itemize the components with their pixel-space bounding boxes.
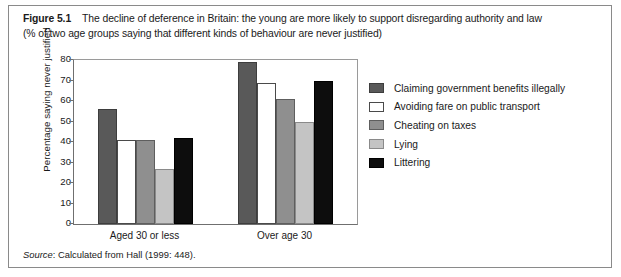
legend-swatch-icon [369, 83, 384, 93]
bar[interactable] [257, 83, 276, 224]
source-text: : Calculated from Hall (1999: 448). [53, 249, 196, 260]
figure-caption-line1: The decline of deference in Britain: the… [82, 13, 542, 24]
x-axis-tick-label: Over age 30 [225, 230, 345, 241]
bar-group [238, 60, 333, 224]
legend-item[interactable]: Claiming government benefits illegally [369, 79, 604, 98]
bar[interactable] [117, 140, 136, 224]
bar[interactable] [155, 169, 174, 224]
bar[interactable] [238, 62, 257, 224]
legend-item[interactable]: Cheating on taxes [369, 116, 604, 135]
legend-label: Littering [394, 157, 430, 168]
legend-label: Cheating on taxes [394, 120, 476, 131]
source-label: Source [23, 249, 53, 260]
chart-legend: Claiming government benefits illegallyAv… [369, 79, 604, 172]
legend-label: Claiming government benefits illegally [394, 83, 565, 94]
bar[interactable] [98, 109, 117, 224]
legend-label: Avoiding fare on public transport [394, 101, 540, 112]
y-axis-tick-labels: 01020304050607080 [47, 52, 71, 232]
bar-groups [74, 60, 357, 224]
source-note: Source: Calculated from Hall (1999: 448)… [23, 249, 196, 260]
x-axis-tick-label: Aged 30 or less [85, 230, 205, 241]
bar[interactable] [174, 138, 193, 224]
legend-swatch-icon [369, 139, 384, 149]
bar[interactable] [295, 122, 314, 225]
legend-item[interactable]: Littering [369, 153, 604, 172]
bar[interactable] [276, 99, 295, 224]
figure-caption: Figure 5.1The decline of deference in Br… [23, 12, 601, 41]
figure-card: Figure 5.1The decline of deference in Br… [8, 5, 612, 268]
legend-swatch-icon [369, 102, 384, 112]
legend-item[interactable]: Avoiding fare on public transport [369, 98, 604, 117]
bar-group [98, 60, 193, 224]
legend-item[interactable]: Lying [369, 135, 604, 154]
legend-swatch-icon [369, 120, 384, 130]
bar[interactable] [314, 81, 333, 225]
legend-swatch-icon [369, 158, 384, 168]
figure-caption-line2: (% of two age groups saying that differe… [23, 28, 382, 39]
plot-area [73, 59, 358, 225]
bar[interactable] [136, 140, 155, 224]
legend-label: Lying [394, 139, 418, 150]
